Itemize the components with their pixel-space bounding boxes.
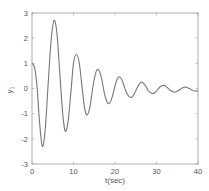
y-axis-label: y1	[5, 86, 15, 93]
series-y1-line	[32, 20, 198, 146]
x-tick-label: 0	[30, 167, 34, 176]
x-tick-label: 20	[111, 167, 119, 176]
y-tick-label: 0	[24, 84, 28, 93]
y-tick-label: 3	[24, 9, 28, 18]
x-axis-label: t(sec)	[105, 176, 125, 185]
x-tick-label: 30	[152, 167, 160, 176]
y-tick-label: -3	[21, 160, 28, 169]
x-axis-ticks: 010203040	[30, 13, 202, 176]
y-axis-label-main: y1	[5, 86, 15, 93]
y-tick-label: 2	[24, 34, 28, 43]
y-tick-label: -1	[21, 109, 28, 118]
y-tick-label: -2	[21, 135, 28, 144]
x-tick-label: 40	[194, 167, 202, 176]
y-tick-label: 1	[24, 59, 28, 68]
x-tick-label: 10	[69, 167, 77, 176]
line-chart: -3-2-10123 010203040 t(sec) y1	[0, 0, 209, 191]
